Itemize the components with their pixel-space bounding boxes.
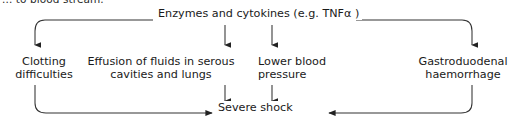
node-severe-shock: Severe shock [215, 101, 296, 114]
node-effusion-of-fluids: Effusion of fluids in serous cavities an… [78, 55, 244, 81]
edge-clotting-to-shock [35, 85, 212, 113]
clipped-caption-text: ... to blood stream. [2, 0, 104, 5]
edge-source-to-haemorrhage [462, 20, 472, 45]
node-lower-blood-pressure: Lower blood pressure [258, 55, 354, 81]
diagram-canvas: ... to blood stream. [0, 0, 518, 126]
node-gastroduodenal-haemorrhage: Gastroduodenal haemorrhage [408, 55, 518, 81]
edge-source-to-clotting [35, 20, 45, 45]
edge-haemorrhage-to-shock [329, 85, 472, 113]
node-enzymes-and-cytokines: Enzymes and cytokines (e.g. TNFα ) [155, 7, 362, 20]
node-clotting-difficulties: Clotting difficulties [4, 55, 84, 81]
